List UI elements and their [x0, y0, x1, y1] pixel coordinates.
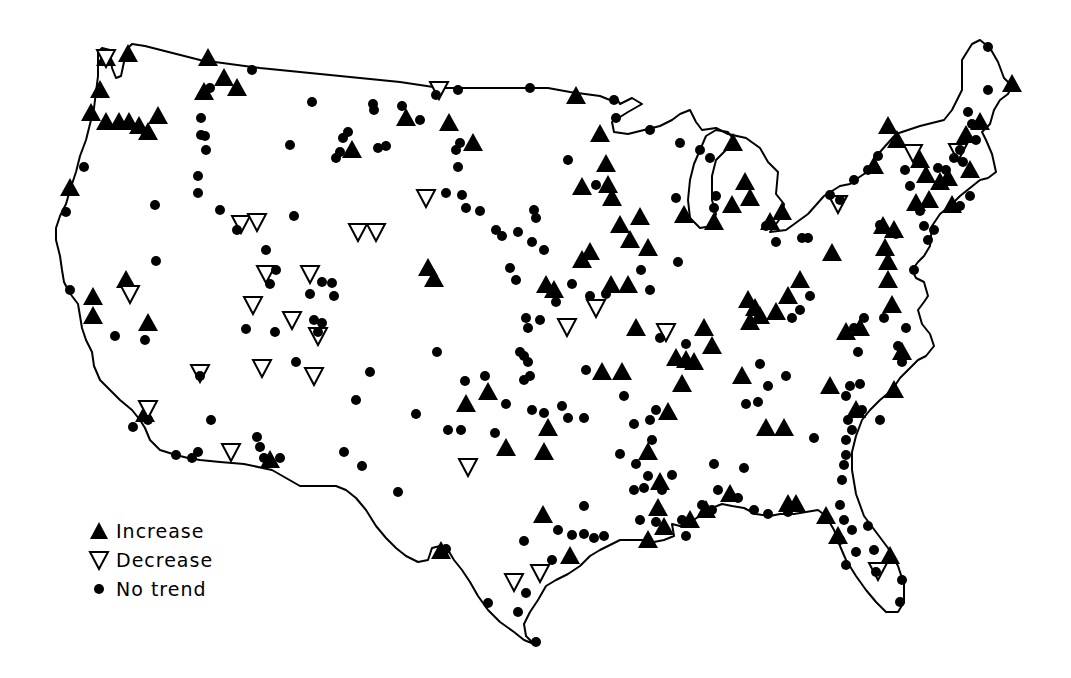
- no-trend-marker: [206, 415, 216, 425]
- no-trend-marker: [553, 525, 563, 535]
- legend-label-increase: Increase: [116, 520, 204, 542]
- no-trend-marker: [841, 391, 851, 401]
- no-trend-marker: [919, 221, 929, 231]
- decrease-marker: [121, 286, 139, 303]
- no-trend-marker: [261, 245, 271, 255]
- no-trend-marker: [611, 113, 621, 123]
- no-trend-marker: [193, 171, 203, 181]
- no-trend-marker: [563, 155, 573, 165]
- no-trend-marker: [835, 500, 845, 510]
- no-trend-marker: [79, 162, 89, 172]
- no-trend-marker: [451, 145, 461, 155]
- no-trend-marker: [461, 203, 471, 213]
- no-trend-marker: [525, 83, 535, 93]
- increase-marker: [778, 286, 798, 304]
- increase-marker: [81, 103, 101, 121]
- no-trend-marker: [196, 113, 206, 123]
- no-trend-marker: [857, 405, 867, 415]
- increase-marker: [598, 175, 618, 193]
- no-trend-marker: [705, 153, 715, 163]
- no-trend-marker: [539, 245, 549, 255]
- no-trend-marker: [755, 359, 765, 369]
- no-trend-marker: [432, 347, 442, 357]
- no-trend-marker: [875, 415, 885, 425]
- no-trend-marker: [547, 555, 557, 565]
- no-trend-marker: [763, 509, 773, 519]
- decrease-marker: [248, 214, 266, 231]
- increase-marker: [674, 205, 694, 223]
- no-trend-marker: [900, 165, 910, 175]
- decrease-marker: [531, 565, 549, 582]
- legend-item-increase: Increase: [88, 516, 213, 545]
- no-trend-marker: [983, 42, 993, 52]
- increase-marker: [1002, 74, 1022, 92]
- no-trend-marker: [61, 207, 71, 217]
- no-trend-marker: [259, 453, 269, 463]
- no-trend-marker: [619, 391, 629, 401]
- no-trend-marker: [527, 237, 537, 247]
- no-trend-marker: [639, 483, 649, 493]
- no-trend-marker: [955, 201, 965, 211]
- no-trend-marker: [443, 425, 453, 435]
- no-trend-marker: [741, 399, 751, 409]
- no-trend-marker: [909, 265, 919, 275]
- no-trend-marker: [893, 341, 903, 351]
- no-trend-marker: [531, 213, 541, 223]
- increase-marker: [638, 238, 658, 256]
- no-trend-marker: [615, 449, 625, 459]
- no-trend-marker: [453, 85, 463, 95]
- no-trend-marker: [519, 375, 529, 385]
- increase-marker: [875, 238, 895, 256]
- no-trend-marker: [863, 521, 873, 531]
- no-trend-marker: [941, 165, 951, 175]
- decrease-marker: [505, 574, 523, 591]
- no-trend-marker: [527, 405, 537, 415]
- no-trend-marker: [151, 256, 161, 266]
- no-trend-marker: [513, 607, 523, 617]
- no-trend-marker: [843, 415, 853, 425]
- filled-triangle-up-icon: [88, 520, 110, 542]
- no-trend-marker: [591, 180, 601, 190]
- no-trend-marker: [631, 459, 641, 469]
- no-trend-marker: [636, 265, 646, 275]
- no-trend-marker: [247, 65, 257, 75]
- no-trend-marker: [749, 505, 759, 515]
- no-trend-marker: [313, 327, 323, 337]
- increase-marker: [704, 212, 724, 230]
- increase-marker: [496, 438, 516, 456]
- no-trend-marker: [629, 419, 639, 429]
- increase-marker: [566, 86, 586, 104]
- increase-marker: [612, 362, 632, 380]
- no-trend-marker: [365, 367, 375, 377]
- increase-marker: [672, 374, 692, 392]
- no-trend-marker: [803, 233, 813, 243]
- increase-marker: [534, 442, 554, 460]
- no-trend-marker: [671, 193, 681, 203]
- no-trend-marker: [497, 231, 507, 241]
- no-trend-marker: [733, 493, 743, 503]
- no-trend-marker: [215, 205, 225, 215]
- no-trend-marker: [195, 371, 205, 381]
- increase-marker: [596, 154, 616, 172]
- no-trend-marker: [787, 313, 797, 323]
- increase-marker: [882, 295, 902, 313]
- no-trend-marker: [837, 475, 847, 485]
- increase-marker: [456, 394, 476, 412]
- no-trend-marker: [505, 263, 515, 273]
- no-trend-marker: [441, 188, 451, 198]
- no-trend-marker: [667, 470, 677, 480]
- no-trend-marker: [873, 151, 883, 161]
- no-trend-marker: [763, 381, 773, 391]
- increase-marker: [694, 318, 714, 336]
- no-trend-marker: [255, 442, 265, 452]
- increase-marker: [880, 546, 900, 564]
- no-trend-marker: [171, 450, 181, 460]
- no-trend-marker: [863, 165, 873, 175]
- no-trend-marker: [523, 323, 533, 333]
- no-trend-marker: [839, 460, 849, 470]
- no-trend-marker: [457, 190, 467, 200]
- no-trend-marker: [983, 85, 993, 95]
- no-trend-marker: [835, 535, 845, 545]
- no-trend-marker: [655, 333, 665, 343]
- no-trend-marker: [963, 107, 973, 117]
